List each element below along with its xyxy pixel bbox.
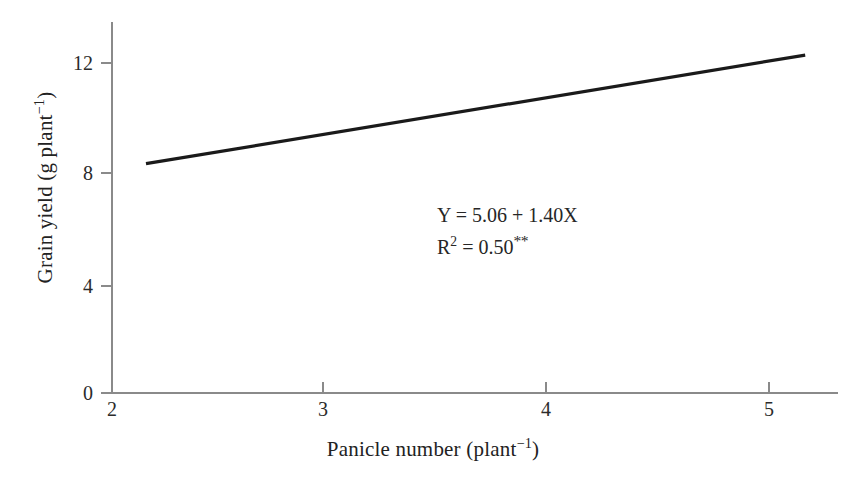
x-axis-line [111, 392, 838, 394]
y-tick-label-8: 8 [53, 163, 93, 183]
x-tick-3 [322, 382, 324, 393]
y-axis-title-exponent: −1 [31, 99, 47, 115]
y-tick-label-12: 12 [53, 53, 93, 73]
x-tick-2 [111, 382, 113, 393]
x-tick-label-2: 2 [82, 398, 142, 420]
significance-marker: ** [513, 232, 528, 249]
y-axis-title: Grain yield (g plant−1) [33, 38, 58, 338]
r-squared-base: R [437, 236, 450, 258]
x-tick-4 [545, 382, 547, 393]
chart-annotation: Y = 5.06 + 1.40X R2 = 0.50** [437, 199, 578, 263]
regression-equation: Y = 5.06 + 1.40X [437, 199, 578, 231]
y-tick-8 [101, 172, 112, 174]
x-axis-title-tail: ) [532, 437, 539, 461]
x-tick-label-4: 4 [516, 398, 576, 420]
y-axis-line [111, 22, 113, 394]
x-tick-label-5: 5 [739, 398, 799, 420]
y-axis-title-base: Grain yield (g plant [33, 114, 57, 283]
r-squared-value: = 0.50 [457, 236, 513, 258]
x-tick-label-3: 3 [293, 398, 353, 420]
x-tick-5 [768, 382, 770, 393]
y-tick-4 [101, 285, 112, 287]
y-axis-title-tail: ) [33, 92, 57, 99]
y-tick-12 [101, 62, 112, 64]
r-squared-label: R2 = 0.50** [437, 231, 578, 263]
regression-line [146, 55, 805, 164]
chart-figure: 0 4 8 12 2 3 4 5 Y = 5.06 + 1.40X R2 = 0… [0, 0, 866, 483]
x-axis-title: Panicle number (plant−1) [0, 437, 866, 462]
x-axis-title-base: Panicle number (plant [327, 437, 517, 461]
y-tick-label-4: 4 [53, 276, 93, 296]
x-axis-title-exponent: −1 [516, 435, 532, 451]
